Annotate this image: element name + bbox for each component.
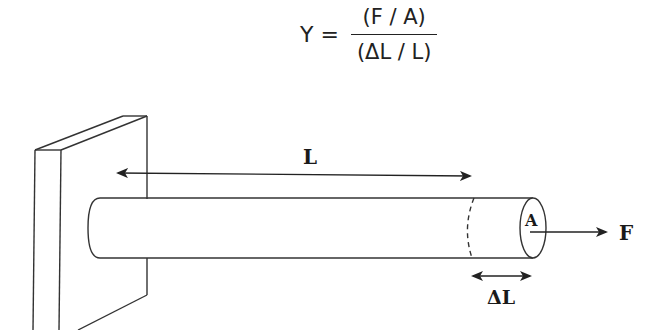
rod [88, 198, 546, 258]
extension-label: ΔL [487, 286, 515, 308]
rod-tension-diagram: L A F ΔL [0, 0, 667, 330]
area-label: A [524, 211, 538, 230]
wall [33, 116, 147, 330]
length-label: L [303, 145, 317, 169]
force-label: F [619, 221, 633, 245]
extension-arrow: ΔL [473, 276, 530, 308]
original-end-dashed-arc [467, 198, 474, 258]
length-arrow: L [118, 145, 470, 176]
